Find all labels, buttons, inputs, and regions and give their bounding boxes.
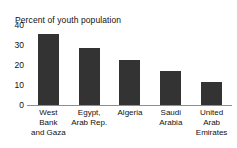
plot-area: 40 30 20 10 0	[0, 0, 237, 148]
x-label-line: Algeria	[110, 108, 150, 118]
x-label-line: Emirates	[192, 128, 232, 138]
x-label-line: Arab	[192, 118, 232, 128]
bar-united-arab-emirates	[201, 82, 222, 105]
bar-chart-figure: Percent of youth population 40 30 20 10 …	[0, 0, 237, 148]
x-label-line: and Gaza	[28, 128, 68, 138]
bar-slot	[151, 20, 191, 105]
x-axis-labels: WestBankand Gaza Egypt,Arab Rep. Algeria…	[28, 108, 232, 138]
bar-series	[28, 20, 232, 105]
y-tick-label: 0	[6, 101, 24, 110]
x-label-line: West	[28, 108, 68, 118]
x-label-line: Saudi	[151, 108, 191, 118]
x-label-line: Egypt,	[69, 108, 109, 118]
y-tick-label: 40	[6, 21, 24, 30]
x-label-line: Arab Rep.	[69, 118, 109, 128]
y-tick-label: 20	[6, 61, 24, 70]
x-axis-baseline	[27, 105, 232, 106]
bar-algeria	[119, 60, 140, 105]
bar-saudi-arabia	[160, 71, 181, 105]
y-tick-label: 30	[6, 41, 24, 50]
y-tick-40: 40	[6, 21, 24, 30]
x-label-saudi-arabia: SaudiArabia	[151, 108, 191, 138]
bar-slot	[28, 20, 68, 105]
y-tick-20: 20	[6, 61, 24, 70]
x-label-algeria: Algeria	[110, 108, 150, 138]
y-tick-label: 10	[6, 81, 24, 90]
x-label-line: United	[192, 108, 232, 118]
x-label-west-bank-and-gaza: WestBankand Gaza	[28, 108, 68, 138]
y-tick-0: 0	[6, 101, 24, 110]
bar-slot	[110, 20, 150, 105]
bar-slot	[192, 20, 232, 105]
y-tick-10: 10	[6, 81, 24, 90]
y-tick-30: 30	[6, 41, 24, 50]
bar-egypt-arab-rep	[79, 48, 100, 105]
x-label-united-arab-emirates: UnitedArabEmirates	[192, 108, 232, 138]
x-label-egypt-arab-rep: Egypt,Arab Rep.	[69, 108, 109, 138]
bar-slot	[69, 20, 109, 105]
x-label-line: Bank	[28, 118, 68, 128]
bar-west-bank-and-gaza	[38, 34, 59, 105]
x-label-line: Arabia	[151, 118, 191, 128]
